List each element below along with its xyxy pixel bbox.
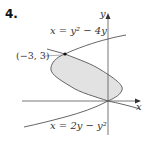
problem-number: 4. [5,7,18,21]
point-label: (−3, 3) [16,50,50,61]
intersection-point [63,52,66,55]
y-axis-arrow-icon [106,13,111,19]
y-axis-label: y [100,8,106,19]
curve-label-lower: x = 2y − y² [50,120,107,131]
x-axis-label: x [136,101,142,112]
diagram: 4. y x x = y² − 4y (−3, 3) x = 2y − y² [0,0,151,142]
curve-label-upper: x = y² − 4y [50,25,107,36]
